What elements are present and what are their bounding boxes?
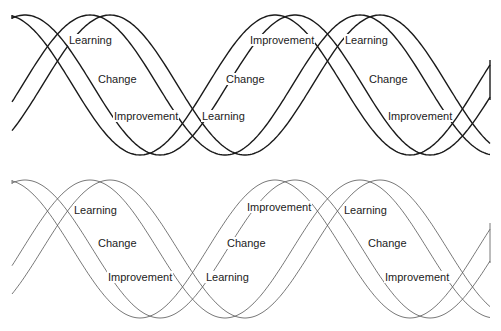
label-change: Change — [226, 237, 267, 249]
label-change: Change — [367, 237, 408, 249]
label-change: Change — [97, 73, 138, 85]
label-change: Change — [368, 73, 409, 85]
label-learning: Learning — [343, 204, 388, 216]
label-learning: Learning — [205, 271, 250, 283]
label-learning: Learning — [201, 110, 246, 122]
label-learning: Learning — [344, 34, 389, 46]
label-learning: Learning — [68, 34, 113, 46]
label-improvement: Improvement — [384, 271, 450, 283]
label-improvement: Improvement — [246, 201, 312, 213]
label-improvement: Improvement — [387, 110, 453, 122]
label-improvement: Improvement — [107, 271, 173, 283]
label-improvement: Improvement — [113, 110, 179, 122]
label-change: Change — [225, 73, 266, 85]
label-change: Change — [97, 237, 138, 249]
label-improvement: Improvement — [249, 34, 315, 46]
label-learning: Learning — [73, 204, 118, 216]
